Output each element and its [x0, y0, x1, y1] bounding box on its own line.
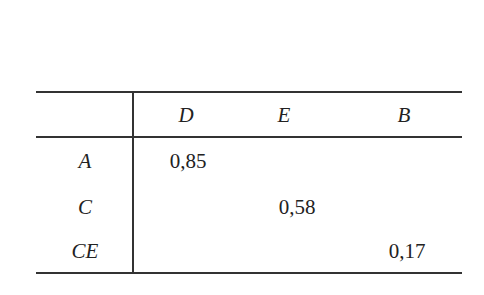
top-rule	[36, 91, 462, 93]
cell-a-d: 0,85	[170, 149, 207, 174]
cell-c-e: 0,58	[279, 195, 316, 220]
bottom-rule	[36, 272, 462, 274]
row-label-divider	[132, 92, 134, 274]
row-label-c: C	[78, 195, 92, 220]
row-label-a: A	[79, 149, 92, 174]
column-header-d: D	[178, 103, 193, 128]
header-rule	[36, 136, 462, 138]
column-header-b: B	[398, 103, 411, 128]
row-label-ce: CE	[72, 239, 99, 264]
cell-ce-b: 0,17	[389, 239, 426, 264]
column-header-e: E	[278, 103, 291, 128]
